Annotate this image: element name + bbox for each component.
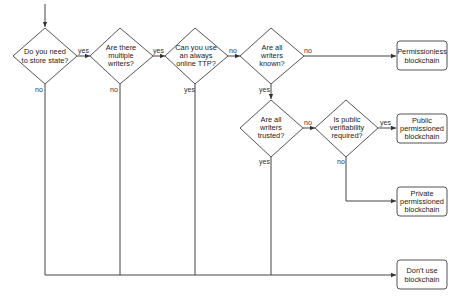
decision-writers-known: Are all writers known? (240, 28, 304, 84)
blockchain-decision-flowchart: yes no yes no no yes no yes no yes yes n… (0, 0, 461, 304)
label-d2-yes: yes (153, 47, 164, 55)
outcome-text: blockchain (405, 275, 440, 284)
outcome-permissionless-blockchain: Permissionless blockchain (397, 41, 447, 70)
label-d4-yes: yes (259, 86, 270, 94)
edge-d6-o3 (346, 157, 396, 201)
label-d6-no: no (337, 158, 345, 165)
label-d5-no: no (304, 119, 312, 126)
outcome-text: Don't use (407, 266, 438, 275)
label-d5-yes: yes (259, 158, 270, 166)
outcome-text: blockchain (405, 56, 440, 65)
decision-text: online TTP? (176, 59, 216, 68)
outcome-private-permissioned-blockchain: Private permissioned blockchain (397, 187, 447, 216)
outcome-text: blockchain (405, 132, 440, 141)
outcome-dont-use-blockchain: Don't use blockchain (397, 260, 447, 289)
outcome-text: blockchain (405, 205, 440, 214)
decision-text: to store state? (22, 56, 69, 65)
label-d3-yes: yes (184, 86, 195, 94)
decision-text: known? (259, 59, 284, 68)
decision-text: trusted? (258, 131, 285, 140)
outcome-text: Permissionless (397, 47, 447, 56)
label-d3-no: no (229, 47, 237, 54)
label-d6-yes: yes (380, 119, 391, 127)
decision-store-state: Do you need to store state? (13, 28, 77, 84)
decision-multiple-writers: Are there multiple writers? (90, 28, 153, 84)
decision-text: Do you need (24, 47, 66, 56)
outcome-public-permissioned-blockchain: Public permissioned blockchain (397, 114, 447, 143)
label-d4-no: no (304, 47, 312, 54)
label-d1-no: no (35, 86, 43, 93)
decision-text: required? (331, 131, 362, 140)
decision-writers-trusted: Are all writers trusted? (240, 100, 303, 157)
decision-online-ttp: Can you use an always online TTP? (165, 28, 228, 84)
decision-public-verifiability: Is public verifiability required? (315, 100, 378, 157)
decision-text: writers? (107, 59, 134, 68)
label-d2-no: no (110, 86, 118, 93)
label-d1-yes: yes (78, 47, 89, 55)
